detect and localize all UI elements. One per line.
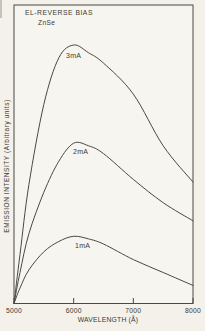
scan-edge-artifact	[0, 0, 2, 18]
plot-frame	[14, 5, 193, 304]
series-label-1mA: 1mA	[75, 242, 90, 249]
x-tick-label-6000: 6000	[66, 307, 82, 314]
x-tick-label-8000: 8000	[185, 307, 201, 314]
x-tick-label-7000: 7000	[125, 307, 141, 314]
chart-subtitle: ZnSe	[38, 19, 55, 26]
series-label-3mA: 3mA	[66, 52, 81, 59]
x-axis-label: WAVELENGTH (Å)	[78, 315, 139, 324]
el-spectra-figure: EL-REVERSE BIAS ZnSe 3mA 2mA 1mA 5000 60…	[0, 0, 205, 331]
x-tick-label-5000: 5000	[6, 307, 22, 314]
emission-chart: EL-REVERSE BIAS ZnSe 3mA 2mA 1mA 5000 60…	[0, 0, 205, 331]
y-axis-label: EMISSION INTENSITY (Arbitrary units)	[3, 99, 11, 232]
series-label-2mA: 2mA	[73, 148, 88, 155]
chart-title: EL-REVERSE BIAS	[25, 9, 93, 16]
